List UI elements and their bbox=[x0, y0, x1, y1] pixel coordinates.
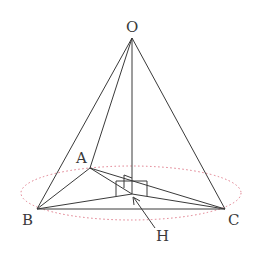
label-C: C bbox=[228, 213, 239, 228]
edge-AB bbox=[37, 168, 90, 209]
label-O: O bbox=[126, 20, 138, 35]
edge-OB bbox=[37, 38, 132, 209]
diagram-canvas: O A B C H bbox=[0, 0, 267, 258]
tetrahedron-figure bbox=[0, 0, 267, 258]
edge-AC bbox=[90, 168, 225, 209]
segment-CH bbox=[132, 194, 225, 209]
label-B: B bbox=[22, 213, 33, 228]
label-A: A bbox=[76, 151, 87, 166]
pointer-arrow-line bbox=[134, 198, 155, 228]
label-H: H bbox=[156, 229, 169, 244]
segment-BH bbox=[37, 194, 132, 209]
edge-OC bbox=[132, 38, 225, 209]
